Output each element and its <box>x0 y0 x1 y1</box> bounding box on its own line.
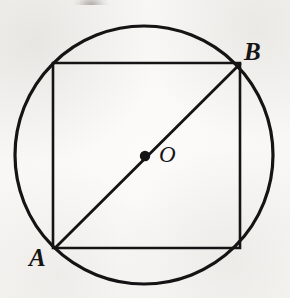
vertex-label-a: A <box>29 245 46 270</box>
center-label-o: O <box>159 143 176 166</box>
vertex-label-b: B <box>244 39 261 64</box>
geometry-figure: A B O <box>0 0 290 298</box>
center-point-O <box>140 151 150 161</box>
